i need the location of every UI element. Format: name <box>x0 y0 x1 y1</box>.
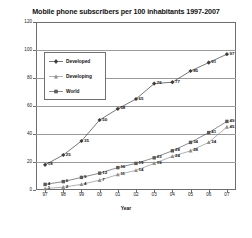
y-tick-label: 60 <box>6 103 32 108</box>
data-point-label: 85 <box>193 68 198 73</box>
triangle-marker-icon <box>49 73 63 80</box>
legend-item-developed: Developed <box>49 57 90 66</box>
legend-label: World <box>66 89 80 94</box>
data-point-label: 28 <box>175 147 180 152</box>
data-point-label: 2 <box>66 184 68 189</box>
data-point-label: 34 <box>211 139 216 144</box>
data-point-label: 35 <box>84 138 89 143</box>
y-tick-label: 20 <box>6 159 32 164</box>
data-point-label: 16 <box>120 164 125 169</box>
data-point-label: 65 <box>139 96 144 101</box>
data-point-marker <box>189 141 192 144</box>
x-tick-mark <box>154 190 155 193</box>
data-point-label: 58 <box>120 105 125 110</box>
data-point-label: 77 <box>175 79 180 84</box>
data-point-label: 97 <box>230 51 235 56</box>
data-point-label: 7 <box>102 177 104 182</box>
data-point-label: 34 <box>193 139 198 144</box>
x-tick-mark <box>191 190 192 193</box>
data-point-label: 18 <box>48 161 53 166</box>
legend: Developed Developing World <box>44 52 106 100</box>
data-point-label: 24 <box>175 153 180 158</box>
data-point-label: 23 <box>157 154 162 159</box>
data-point-marker <box>225 125 229 129</box>
data-point-label: 9 <box>84 174 86 179</box>
data-point-label: 4 <box>84 181 86 186</box>
data-point-marker <box>225 52 229 56</box>
data-point-marker <box>98 172 101 175</box>
data-point-label: 28 <box>193 147 198 152</box>
x-tick-mark <box>63 190 64 193</box>
data-point-label: 25 <box>66 152 71 157</box>
data-point-label: 76 <box>157 80 162 85</box>
data-point-label: 11 <box>120 171 125 176</box>
x-tick-mark <box>118 190 119 193</box>
legend-item-world: World <box>49 87 80 96</box>
x-tick-mark <box>136 190 137 193</box>
data-point-label: 19 <box>157 160 162 165</box>
data-point-label: 14 <box>139 167 144 172</box>
data-point-label: 41 <box>211 129 216 134</box>
y-tick-label: 0 <box>6 187 32 192</box>
y-tick-label: 40 <box>6 131 32 136</box>
data-point-marker <box>116 166 119 169</box>
data-point-marker <box>80 176 83 179</box>
data-point-label: 45 <box>230 124 235 129</box>
x-axis-title: Year <box>0 205 252 211</box>
data-point-marker <box>116 107 120 111</box>
chart-title: Mobile phone subscribers per 100 inhabit… <box>0 7 252 16</box>
data-point-label: 49 <box>230 118 235 123</box>
legend-item-developing: Developing <box>49 72 92 81</box>
data-point-marker <box>207 61 211 65</box>
data-point-marker <box>62 180 65 183</box>
data-point-label: 6 <box>66 178 68 183</box>
x-tick-mark <box>209 190 210 193</box>
x-tick-mark <box>172 190 173 193</box>
data-point-label: 12 <box>102 170 107 175</box>
chart-figure: Mobile phone subscribers per 100 inhabit… <box>0 0 252 238</box>
x-tick-mark <box>81 190 82 193</box>
diamond-marker-icon <box>49 58 63 65</box>
data-point-marker <box>43 183 46 186</box>
data-point-marker <box>43 163 47 167</box>
data-point-label: 91 <box>211 59 216 64</box>
x-tick-mark <box>100 190 101 193</box>
data-point-marker <box>152 156 155 159</box>
data-point-label: 19 <box>139 160 144 165</box>
series-lines <box>36 22 236 190</box>
data-point-marker <box>225 120 228 123</box>
y-tick-label: 100 <box>6 47 32 52</box>
square-marker-icon <box>49 88 63 95</box>
data-point-marker <box>134 162 137 165</box>
data-point-marker <box>170 80 174 84</box>
series-line <box>45 121 227 184</box>
legend-label: Developing <box>66 74 92 79</box>
data-point-label: 4 <box>48 181 50 186</box>
data-point-marker <box>188 69 192 73</box>
y-tick-mark <box>33 190 36 191</box>
y-tick-label: 80 <box>6 75 32 80</box>
data-point-marker <box>207 131 210 134</box>
data-point-label: 50 <box>102 117 107 122</box>
x-tick-mark <box>45 190 46 193</box>
x-tick-mark <box>227 190 228 193</box>
data-point-marker <box>189 149 193 153</box>
legend-label: Developed <box>66 59 90 64</box>
data-point-marker <box>171 149 174 152</box>
y-tick-label: 120 <box>6 19 32 24</box>
